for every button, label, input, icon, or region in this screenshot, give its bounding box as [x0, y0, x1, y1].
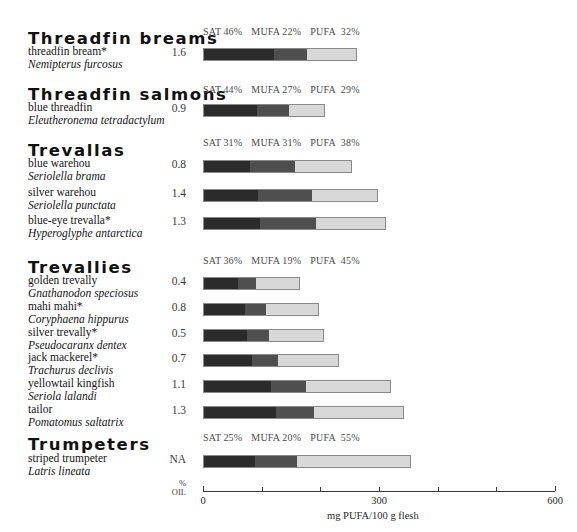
species-scientific-name: Gnathanodon speciosus	[28, 287, 178, 300]
oil-percent-value: 1.3	[160, 215, 186, 227]
bar-segment-mufa	[250, 161, 296, 172]
legend-label-sat-3: SAT	[203, 255, 221, 266]
species-scientific-name: Eleutheronema tetradactylum	[28, 114, 178, 127]
bar-segment-sat	[204, 218, 260, 229]
bar-segment-mufa	[276, 407, 314, 418]
oil-percent-value: 0.5	[160, 327, 186, 339]
species-common-name: silver trevally*	[28, 326, 178, 339]
species-block: yellowtail kingfishSeriola lalandi	[28, 377, 178, 403]
species-scientific-name: Seriolella punctata	[28, 199, 178, 212]
legend-label-pufa-1: PUFA	[310, 84, 336, 95]
bar-striped-trumpeter	[203, 455, 411, 468]
bar-segment-mufa	[257, 105, 289, 116]
x-axis-tick-label-600: 600	[547, 495, 563, 506]
composition-mufa-value-2: 31%	[282, 137, 301, 148]
species-common-name: striped trumpeter	[28, 452, 178, 465]
composition-sat-value-1: 44%	[223, 84, 242, 95]
bar-segment-mufa	[255, 456, 296, 467]
legend-label-mufa-1: MUFA	[251, 84, 280, 95]
fish-pufa-chart: Threadfin breamsSAT46%MUFA22%PUFA32%thre…	[0, 0, 577, 532]
x-axis-tick-label-300: 300	[371, 495, 387, 506]
bar-silver-warehou	[203, 189, 378, 202]
legend-label-sat-2: SAT	[203, 137, 221, 148]
composition-mufa-value-0: 22%	[282, 26, 301, 37]
bar-segment-mufa	[271, 381, 306, 392]
bar-mahi-mahi-	[203, 303, 319, 316]
bar-jack-mackerel-	[203, 354, 339, 367]
species-block: silver trevally*Pseudocaranx dentex	[28, 326, 178, 352]
bar-segment-sat	[204, 105, 257, 116]
legend-label-mufa-2: MUFA	[251, 137, 280, 148]
composition-header-2: SAT31%MUFA31%PUFA38%	[203, 137, 362, 148]
bar-segment-sat	[204, 381, 271, 392]
composition-pufa-value-2: 38%	[341, 137, 360, 148]
bar-segment-pufa	[306, 381, 390, 392]
species-common-name: golden trevally	[28, 274, 178, 287]
oil-percent-value: 1.6	[160, 46, 186, 58]
oil-percent-value: 0.4	[160, 275, 186, 287]
bar-segment-mufa	[274, 49, 307, 60]
species-common-name: tailor	[28, 403, 178, 416]
bar-blue-eye-trevalla-	[203, 217, 386, 230]
species-block: striped trumpeterLatris lineata	[28, 452, 178, 478]
bar-segment-sat	[204, 49, 274, 60]
composition-sat-value-4: 25%	[223, 432, 242, 443]
species-block: blue threadfinEleutheronema tetradactylu…	[28, 101, 178, 127]
legend-label-mufa-0: MUFA	[251, 26, 280, 37]
composition-header-3: SAT36%MUFA19%PUFA45%	[203, 255, 362, 266]
legend-label-mufa-4: MUFA	[251, 432, 280, 443]
legend-label-pufa-0: PUFA	[310, 26, 336, 37]
oil-column-label: %OIL	[160, 479, 186, 497]
composition-mufa-value-3: 19%	[282, 255, 301, 266]
composition-pufa-value-3: 45%	[341, 255, 360, 266]
species-common-name: blue warehou	[28, 157, 178, 170]
composition-header-1: SAT44%MUFA27%PUFA29%	[203, 84, 362, 95]
bar-segment-mufa	[247, 330, 270, 341]
x-axis-tick-400	[438, 487, 439, 491]
oil-column-label-oil: OIL	[160, 488, 186, 497]
species-scientific-name: Pseudocaranx dentex	[28, 339, 178, 352]
legend-label-pufa-3: PUFA	[310, 255, 336, 266]
composition-header-4: SAT25%MUFA20%PUFA55%	[203, 432, 362, 443]
species-block: golden trevallyGnathanodon speciosus	[28, 274, 178, 300]
bar-segment-pufa	[307, 49, 356, 60]
bar-segment-pufa	[314, 407, 404, 418]
x-axis-tick-300	[379, 487, 380, 491]
species-block: tailorPomatomus saltatrix	[28, 403, 178, 429]
species-block: threadfin bream*Nemipterus furcosus	[28, 45, 178, 71]
bar-segment-sat	[204, 161, 250, 172]
species-scientific-name: Hyperoglyphe antarctica	[28, 227, 178, 240]
species-block: mahi mahi*Coryphaena hippurus	[28, 300, 178, 326]
species-common-name: blue-eye trevalla*	[28, 214, 178, 227]
species-block: jack mackerel*Trachurus declivis	[28, 351, 178, 377]
species-scientific-name: Coryphaena hippurus	[28, 313, 178, 326]
bar-segment-pufa	[312, 190, 378, 201]
composition-sat-value-2: 31%	[223, 137, 242, 148]
bar-segment-pufa	[316, 218, 385, 229]
composition-pufa-value-4: 55%	[341, 432, 360, 443]
bar-segment-pufa	[295, 161, 351, 172]
legend-label-pufa-4: PUFA	[310, 432, 336, 443]
composition-pufa-value-1: 29%	[341, 84, 360, 95]
x-axis-tick-label-0: 0	[200, 495, 205, 506]
legend-label-sat-0: SAT	[203, 26, 221, 37]
species-block: blue warehouSeriolella brama	[28, 157, 178, 183]
x-axis-tick-500	[496, 487, 497, 491]
oil-percent-value: 1.3	[160, 404, 186, 416]
bar-segment-pufa	[269, 330, 322, 341]
oil-percent-value: 0.8	[160, 301, 186, 313]
species-common-name: silver warehou	[28, 186, 178, 199]
bar-segment-sat	[204, 304, 245, 315]
bar-segment-mufa	[238, 278, 256, 289]
oil-percent-value: NA	[160, 453, 186, 465]
bar-segment-sat	[204, 456, 255, 467]
bar-segment-mufa	[260, 218, 316, 229]
oil-percent-value: 0.9	[160, 102, 186, 114]
bar-golden-trevally	[203, 277, 300, 290]
bar-segment-sat	[204, 330, 247, 341]
x-axis-tick-0	[203, 486, 204, 491]
x-axis-tick-100	[262, 487, 263, 491]
species-scientific-name: Seriolella brama	[28, 170, 178, 183]
x-axis-line	[203, 491, 555, 492]
bar-segment-sat	[204, 278, 238, 289]
